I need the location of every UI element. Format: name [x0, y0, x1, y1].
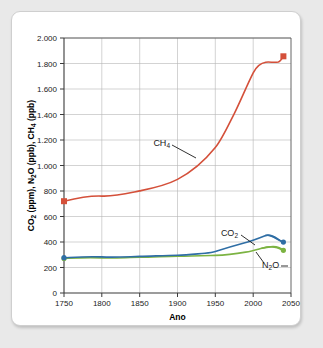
series-co2-line — [64, 235, 283, 258]
y-tick-label: 2.000 — [37, 34, 58, 43]
series-ch4-end-marker — [280, 53, 286, 59]
greenhouse-gas-line-chart: 2.000 1.800 1.600 1.400 1.200 1.000 800 … — [0, 0, 323, 348]
y-tick-label: 600 — [44, 213, 58, 222]
svg-text:CO2 (ppm), N2O (ppb), CH4 (ppb: CO2 (ppm), N2O (ppb), CH4 (ppb) — [26, 100, 37, 231]
series-ch4-start-marker — [61, 198, 67, 204]
x-axis-title: Ano — [169, 312, 186, 322]
y-tick-label: 1.200 — [37, 136, 58, 145]
series-ch4 — [61, 53, 286, 204]
y-tick-label: 400 — [44, 238, 58, 247]
x-tick-label: 1750 — [55, 299, 73, 308]
series-n2o-tail — [262, 247, 284, 251]
co2-label-text: CO — [221, 228, 235, 238]
y-tick-label: 1.600 — [37, 85, 58, 94]
y-tick-label: 0 — [53, 289, 58, 298]
y-tick-label: 200 — [44, 264, 58, 273]
y-tick-label: 1.800 — [37, 60, 58, 69]
svg-text:N2O: N2O — [262, 260, 279, 271]
series-ch4-line — [64, 56, 283, 201]
y-title-part-co2: CO — [26, 218, 36, 231]
series-co2-start-marker — [61, 255, 66, 260]
annotation-n2o: N2O — [256, 252, 288, 271]
x-tick-label: 1950 — [206, 299, 224, 308]
x-tick-label: 2000 — [244, 299, 262, 308]
series-n2o — [61, 247, 286, 261]
ch4-leader-line — [172, 145, 196, 158]
annotation-ch4: CH4 — [153, 138, 196, 158]
x-tick-marks — [64, 293, 291, 297]
svg-text:CH4: CH4 — [153, 138, 170, 149]
x-tick-label: 1800 — [93, 299, 111, 308]
y-title-part-ch4: O (ppb), CH — [26, 127, 36, 174]
y-tick-label: 1.400 — [37, 111, 58, 120]
x-tick-label: 1900 — [169, 299, 187, 308]
ch4-label-text: CH — [153, 138, 166, 148]
y-tick-label: 1.000 — [37, 162, 58, 171]
series-n2o-endpoint-fix — [262, 247, 284, 251]
co2-label-sub: 2 — [234, 232, 238, 239]
x-tick-labels: 1750 1800 1850 1900 1950 2000 2050 — [55, 299, 300, 308]
y-title-part-n2o: (ppm), N — [26, 178, 36, 215]
x-tick-label: 2050 — [282, 299, 300, 308]
annotation-co2: CO2 — [221, 228, 255, 245]
y-tick-marks — [60, 38, 64, 293]
y-tick-label: 800 — [44, 187, 58, 196]
n2o-label-text2: O — [272, 260, 279, 270]
ch4-label-sub: 4 — [166, 142, 170, 149]
svg-text:CO2: CO2 — [221, 228, 239, 239]
y-axis-title: CO2 (ppm), N2O (ppb), CH4 (ppb) — [26, 100, 37, 231]
y-tick-labels: 2.000 1.800 1.600 1.400 1.200 1.000 800 … — [37, 34, 58, 298]
n2o-leader-line — [256, 252, 264, 263]
y-title-part-unit: (ppb) — [26, 100, 36, 124]
x-tick-label: 1850 — [131, 299, 149, 308]
